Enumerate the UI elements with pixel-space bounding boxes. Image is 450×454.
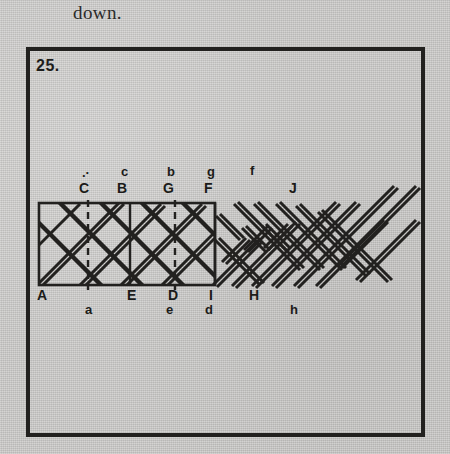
label-bottom-upper-A: A: [37, 288, 47, 302]
label-top-upper-J: J: [289, 181, 297, 195]
label-bottom-lower-d: d: [205, 303, 213, 316]
label-bottom-upper-I: I: [209, 288, 213, 302]
label-top-lower-0: .·: [82, 166, 90, 179]
label-top-upper-B: B: [117, 181, 127, 195]
label-top-lower-f: f: [250, 164, 254, 177]
rising-strands: [0, 202, 247, 288]
label-bottom-lower-a: a: [85, 303, 92, 316]
label-bottom-upper-D: D: [168, 288, 178, 302]
label-top-upper-G: G: [163, 181, 174, 195]
label-top-upper-F: F: [204, 181, 213, 195]
label-top-lower-c: c: [121, 165, 128, 178]
label-top-upper-C: C: [79, 181, 89, 195]
right-lattice: [213, 186, 420, 288]
label-bottom-lower-h: h: [290, 303, 298, 316]
label-top-lower-b: b: [167, 165, 175, 178]
label-bottom-lower-e: e: [166, 303, 173, 316]
braid-diagram: [0, 0, 450, 454]
label-bottom-upper-E: E: [127, 288, 136, 302]
label-bottom-upper-H: H: [249, 288, 259, 302]
label-top-lower-g: g: [207, 165, 215, 178]
